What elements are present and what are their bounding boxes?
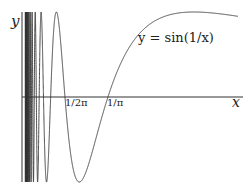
tick-label-1-over-2pi: 1/2π: [65, 97, 88, 108]
tick-label-1-over-pi: 1/π: [107, 97, 123, 108]
x-axis-label: x: [232, 94, 240, 110]
plot-area: [0, 0, 251, 192]
y-axis-label: y: [11, 12, 19, 30]
curve-label: y = sin(1/x): [138, 30, 214, 45]
